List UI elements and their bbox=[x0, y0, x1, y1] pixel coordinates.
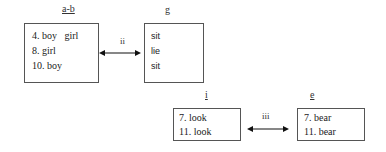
box-a-b: 4. boy girl 8. girl 10. boy bbox=[24, 23, 99, 83]
box-g-line-3: sit bbox=[151, 61, 160, 71]
bidirectional-arrow-icon bbox=[247, 124, 289, 134]
box-e-line-1: 7. bear bbox=[304, 112, 331, 123]
box-i: 7. look 11. look bbox=[173, 108, 241, 141]
box-i-line-2: 11. look bbox=[179, 126, 211, 137]
group-label-g: g bbox=[165, 4, 170, 15]
box-a-b-line-2: 8. girl bbox=[32, 45, 56, 56]
box-i-line-1: 7. look bbox=[179, 112, 207, 123]
group-label-e: e bbox=[310, 89, 314, 100]
box-g: sit lie sit bbox=[144, 23, 204, 83]
box-a-b-line-1: 4. boy girl bbox=[32, 30, 78, 41]
link-label-iii: iii bbox=[262, 111, 270, 121]
bidirectional-arrow-icon bbox=[99, 48, 141, 58]
box-a-b-line-3: 10. boy bbox=[32, 60, 62, 71]
group-label-i: i bbox=[205, 89, 208, 100]
box-g-line-2: lie bbox=[151, 46, 160, 56]
box-e: 7. bear 11. bear bbox=[297, 108, 365, 141]
box-g-line-1: sit bbox=[151, 31, 160, 41]
group-label-a-b: a-b bbox=[62, 3, 75, 14]
link-label-ii: ii bbox=[120, 36, 125, 46]
box-e-line-2: 11. bear bbox=[304, 126, 336, 137]
